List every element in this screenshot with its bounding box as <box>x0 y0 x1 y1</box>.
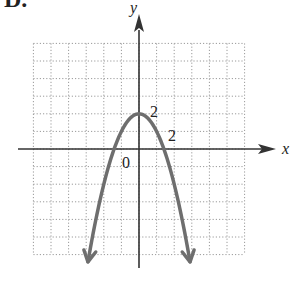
x-axis-label: x <box>282 141 289 157</box>
x-tick-label: 2 <box>168 128 176 144</box>
origin-label: 0 <box>122 155 130 171</box>
y-tick-label: 2 <box>150 104 158 120</box>
y-axis-label: y <box>130 0 137 16</box>
coordinate-plane <box>0 0 301 281</box>
axes <box>18 14 276 268</box>
graph-figure: D. y x 0 2 2 <box>0 0 301 281</box>
